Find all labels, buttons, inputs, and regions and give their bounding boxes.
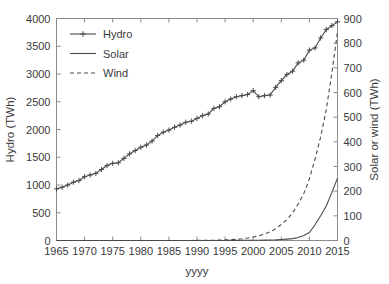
x-tick-label: 2005 xyxy=(269,245,293,257)
legend-label: Wind xyxy=(103,67,128,79)
y2-tick-label: 400 xyxy=(344,136,362,148)
y-axis-title: Hydro (TWh) xyxy=(4,96,16,162)
axis-labels-group: 1965197019751980198519901995200020052010… xyxy=(4,13,380,278)
x-axis-title: yyyy xyxy=(186,265,209,277)
y2-tick-label: 200 xyxy=(344,185,362,197)
x-tick-label: 1990 xyxy=(185,245,209,257)
chart-legend: HydroSolarWind xyxy=(70,28,132,79)
x-tick-label: 1975 xyxy=(100,245,124,257)
y2-tick-label: 0 xyxy=(344,235,350,247)
y-tick-label: 1000 xyxy=(26,179,50,191)
x-tick-label: 1985 xyxy=(157,245,181,257)
series-group xyxy=(54,19,340,240)
y-tick-label: 2000 xyxy=(26,124,50,136)
y-tick-label: 4000 xyxy=(26,13,50,25)
series-line-wind xyxy=(57,32,338,240)
x-tick-label: 1995 xyxy=(213,245,237,257)
x-tick-label: 2010 xyxy=(297,245,321,257)
y2-tick-label: 300 xyxy=(344,161,362,173)
y-tick-label: 500 xyxy=(32,207,50,219)
y-tick-label: 3000 xyxy=(26,68,50,80)
y-tick-label: 3500 xyxy=(26,40,50,52)
legend-label: Hydro xyxy=(103,28,132,40)
x-tick-label: 2000 xyxy=(241,245,265,257)
x-tick-label: 1970 xyxy=(72,245,96,257)
y-tick-label: 2500 xyxy=(26,96,50,108)
y-tick-label: 1500 xyxy=(26,151,50,163)
series-line-hydro xyxy=(57,22,338,189)
y-tick-label: 0 xyxy=(44,235,50,247)
chart-canvas: 1965197019751980198519901995200020052010… xyxy=(0,0,389,284)
legend-item-wind[interactable]: Wind xyxy=(70,67,128,79)
y2-axis-title: Solar or wind (TWh) xyxy=(368,78,380,180)
y2-tick-label: 100 xyxy=(344,210,362,222)
legend-label: Solar xyxy=(103,48,129,60)
legend-item-solar[interactable]: Solar xyxy=(70,48,129,60)
x-tick-label: 1980 xyxy=(129,245,153,257)
y2-tick-label: 600 xyxy=(344,87,362,99)
legend-item-hydro[interactable]: Hydro xyxy=(70,28,132,40)
chart-figure: 1965197019751980198519901995200020052010… xyxy=(0,0,389,284)
y2-tick-label: 700 xyxy=(344,62,362,74)
plot-box xyxy=(57,19,338,241)
series-markers-hydro xyxy=(54,19,340,191)
y2-tick-label: 800 xyxy=(344,37,362,49)
y2-tick-label: 900 xyxy=(344,13,362,25)
y2-tick-label: 500 xyxy=(344,111,362,123)
axes-group xyxy=(57,19,338,241)
